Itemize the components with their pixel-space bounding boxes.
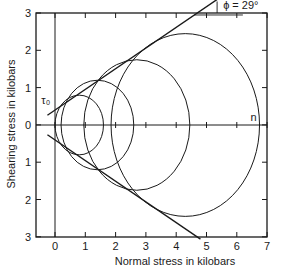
x-tick-label: 2	[113, 240, 119, 252]
y-tick-label: 2	[25, 44, 31, 56]
mohr-circle-chart: 012345673210123 ϕ = 29°τ₀n	[0, 0, 289, 279]
y-tick-label: 1	[25, 156, 31, 168]
lower-envelope-line	[47, 135, 200, 239]
y-tick-label: 2	[25, 194, 31, 206]
axes	[36, 13, 267, 237]
x-tick-label: 6	[234, 240, 240, 252]
y-tick-label: 1	[25, 82, 31, 94]
x-tick-label: 1	[82, 240, 88, 252]
y-tick-label: 3	[25, 7, 31, 19]
failure-envelope	[47, 0, 242, 239]
y-tick-label: 0	[25, 119, 31, 131]
upper-envelope-line	[47, 0, 242, 115]
y-tick-label: 3	[25, 231, 31, 243]
phi-annotation: ϕ = 29°	[223, 0, 258, 11]
n-annotation: n	[250, 111, 256, 123]
x-axis-label: Normal stress in kilobars	[60, 255, 289, 267]
x-tick-label: 5	[203, 240, 209, 252]
x-tick-label: 7	[264, 240, 270, 252]
x-tick-label: 4	[173, 240, 179, 252]
x-tick-label: 3	[143, 240, 149, 252]
x-tick-label: 0	[52, 240, 58, 252]
y-axis-label: Shearing stress in kilobars	[5, 39, 19, 209]
tau0-annotation: τ₀	[41, 94, 50, 106]
